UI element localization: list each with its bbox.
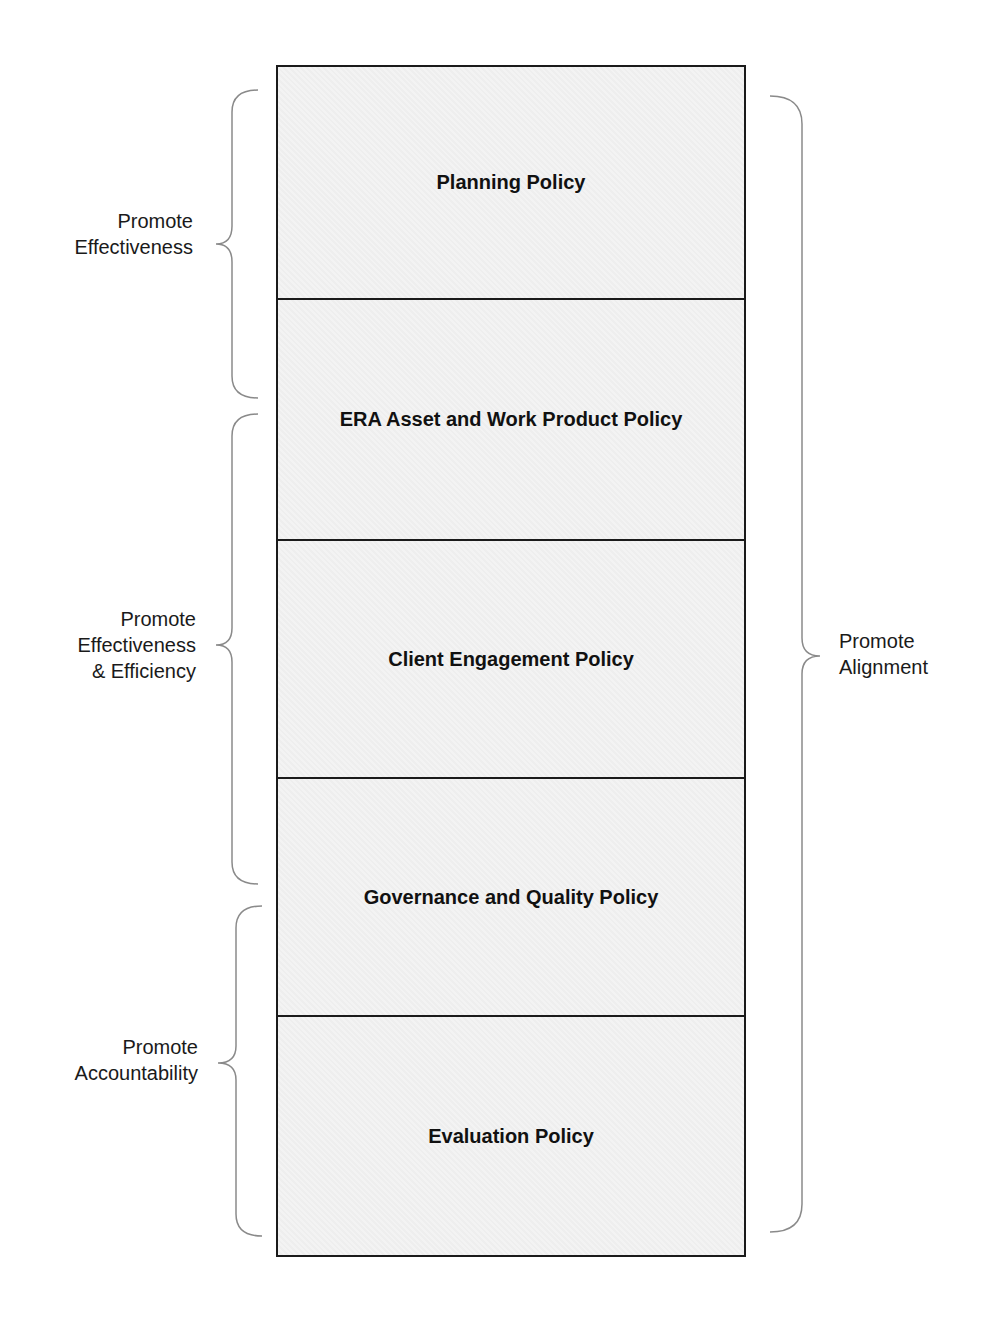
label-promote-alignment: Promote Alignment (839, 628, 928, 680)
label-promote-accountability: Promote Accountability (75, 1034, 198, 1086)
label-line: Accountability (75, 1060, 198, 1086)
left-brace-accountability (218, 906, 262, 1236)
label-line: Alignment (839, 654, 928, 680)
label-line: Promote (75, 1034, 198, 1060)
left-brace-efficiency (216, 414, 258, 884)
left-brace-effectiveness (216, 90, 258, 398)
label-line: Promote (839, 628, 928, 654)
label-line: Effectiveness (74, 234, 193, 260)
label-line: & Efficiency (77, 658, 196, 684)
label-promote-effectiveness-efficiency: Promote Effectiveness & Efficiency (77, 606, 196, 684)
label-line: Promote (77, 606, 196, 632)
label-line: Effectiveness (77, 632, 196, 658)
right-brace-alignment (770, 96, 820, 1232)
label-promote-effectiveness: Promote Effectiveness (74, 208, 193, 260)
label-line: Promote (74, 208, 193, 234)
